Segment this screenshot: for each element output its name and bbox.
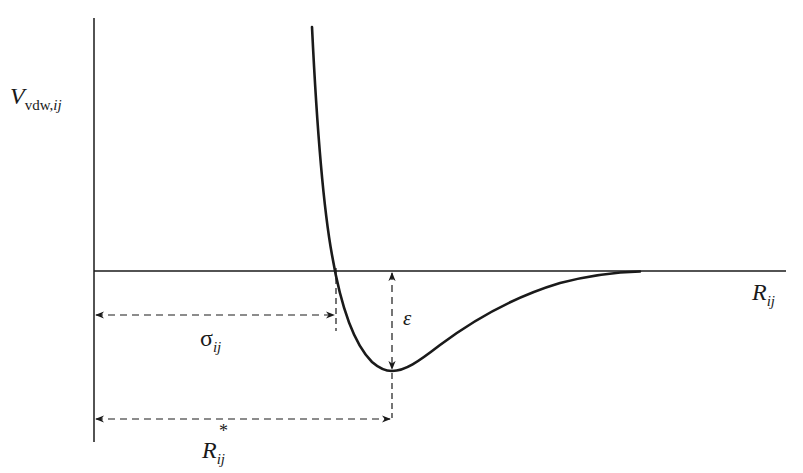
x-axis-label-main: R — [752, 279, 767, 305]
r-star-label: R*ij — [202, 438, 225, 462]
epsilon-label-main: ε — [403, 306, 411, 330]
vdw-potential-diagram — [0, 0, 803, 473]
sigma-label-main: σ — [200, 325, 213, 351]
y-axis-label-main: V — [10, 83, 25, 109]
r-star-label-main: R — [202, 437, 217, 463]
potential-curve — [312, 27, 640, 371]
x-axis-label: Rij — [752, 280, 775, 304]
y-axis-label-sub: vdw, — [25, 97, 54, 113]
y-axis-label: Vvdw,ij — [10, 84, 62, 108]
sigma-label-sub: ij — [213, 339, 221, 355]
r-star-label-sub: ij — [217, 451, 225, 467]
r-star-label-sup: * — [219, 422, 228, 440]
y-axis-label-sub-italic: ij — [53, 97, 61, 113]
sigma-label: σij — [200, 326, 221, 350]
x-axis-label-sub: ij — [767, 293, 775, 309]
epsilon-label: ε — [403, 308, 411, 329]
